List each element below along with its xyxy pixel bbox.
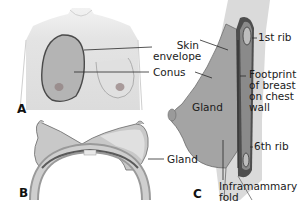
panel-label-c: C <box>193 187 202 201</box>
panel-label-b: B <box>19 186 28 200</box>
panel-label-a: A <box>17 102 26 116</box>
panel-b-axial-section <box>34 120 164 200</box>
breast-anatomy-figure: A B C Skin envelope Conus Gland Gland 1s… <box>0 0 304 211</box>
label-skin-envelope: Skin envelope <box>153 40 199 62</box>
label-gland-axial: Gland <box>167 154 198 165</box>
label-conus: Conus <box>153 67 186 78</box>
label-first-rib: 1st rib <box>258 32 292 43</box>
label-gland-sagittal: Gland <box>192 102 223 113</box>
panel-a-frontal-view <box>20 8 152 110</box>
label-inframammary-fold: Inframammary fold <box>219 181 297 203</box>
label-sixth-rib: 6th rib <box>254 141 289 152</box>
label-footprint: Footprint of breast on chest wall <box>249 69 296 113</box>
